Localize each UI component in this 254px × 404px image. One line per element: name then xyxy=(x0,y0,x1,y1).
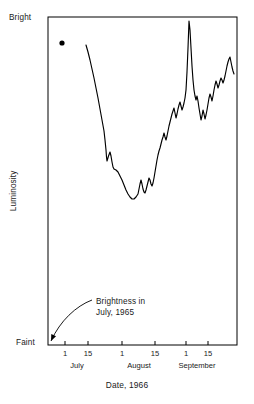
x-axis-ticks xyxy=(65,341,208,345)
luminosity-chart-figure: Bright Faint Luminosity Date, 1966 Brigh… xyxy=(0,0,254,404)
luminosity-light-curve xyxy=(86,21,234,199)
previous-year-brightness-dot xyxy=(59,40,64,45)
chart-canvas xyxy=(0,0,254,404)
plot-frame xyxy=(48,17,237,345)
annotation-arrow-icon xyxy=(51,300,92,341)
